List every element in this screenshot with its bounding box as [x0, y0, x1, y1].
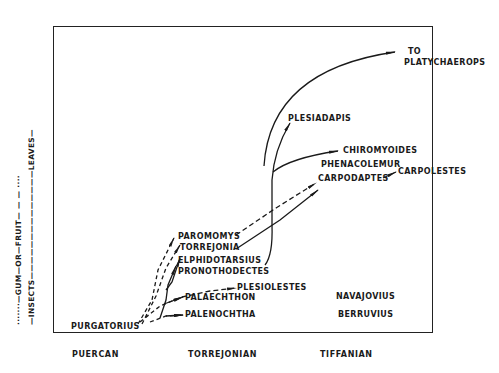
taxon-phenacolemur: PHENACOLEMUR	[321, 160, 401, 170]
diet-axis-secondary: ·······—GUM—OR—FRUIT— — — ····	[14, 25, 23, 325]
taxon-carpodaptes: CARPODAPTES	[318, 174, 389, 184]
taxon-palenochtha: PALENOCHTHA	[185, 310, 256, 320]
taxon-plesiadapis: PLESIADAPIS	[288, 114, 351, 124]
taxon-plesiolestes: PLESIOLESTES	[237, 283, 307, 293]
diet-axis-primary: —INSECTS——————————————LEAVES—	[27, 25, 36, 325]
taxon-palaechthon: PALAECHTHON	[185, 293, 256, 303]
label-to: TO	[408, 47, 421, 57]
taxon-chiromyoides: CHIROMYOIDES	[343, 146, 417, 156]
period-tiffanian: TIFFANIAN	[320, 350, 373, 359]
taxon-torrejonia: TORREJONIA	[180, 243, 240, 253]
taxon-carpolestes: CARPOLESTES	[398, 167, 466, 177]
taxon-elphidotarsius: ELPHIDOTARSIUS	[178, 256, 261, 266]
period-puercan: PUERCAN	[72, 350, 119, 359]
taxon-pronothodectes: PRONOTHODECTES	[178, 267, 270, 277]
taxon-navajovius: NAVAJOVIUS	[336, 292, 395, 302]
taxon-berruvius: BERRUVIUS	[338, 310, 393, 320]
taxon-platychaerops: PLATYCHAEROPS	[404, 58, 486, 68]
period-torrejonian: TORREJONIAN	[188, 350, 257, 359]
taxon-paromomys: PAROMOMYS	[178, 232, 240, 242]
taxon-purgatorius: PURGATORIUS	[71, 322, 140, 332]
